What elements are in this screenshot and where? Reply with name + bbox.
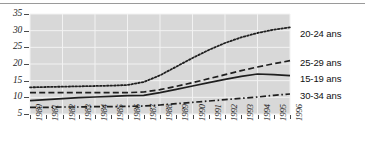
x-tick-label: 1988 xyxy=(164,104,174,121)
legend-label-30-34-ans: 30-34 ans xyxy=(300,90,341,101)
x-tick-mark xyxy=(160,115,161,119)
x-tick-mark xyxy=(79,115,80,119)
y-tick-label: 35 xyxy=(2,8,22,18)
x-tick-mark xyxy=(30,115,31,119)
x-tick-mark xyxy=(241,115,242,119)
y-tick-label: 30 xyxy=(2,25,22,35)
x-tick-label: 1986 xyxy=(132,104,142,121)
legend-label-15-19-ans: 15-19 ans xyxy=(300,73,341,84)
x-tick-label: 1984 xyxy=(99,104,109,121)
y-tick-label: 15 xyxy=(2,75,22,85)
x-tick-mark xyxy=(46,115,47,119)
y-tick-label: 5 xyxy=(2,108,22,118)
x-tick-label: 1989 xyxy=(180,104,190,121)
y-tick-mark xyxy=(24,47,29,48)
x-tick-mark xyxy=(128,115,129,119)
x-tick-mark xyxy=(111,115,112,119)
x-tick-mark xyxy=(176,115,177,119)
x-tick-label: 1987 xyxy=(148,104,158,121)
x-tick-mark xyxy=(63,115,64,119)
y-tick-mark xyxy=(24,97,29,98)
series-line-25-29-ans xyxy=(30,61,290,93)
x-tick-label: 1991 xyxy=(213,104,223,121)
y-tick-mark xyxy=(24,31,29,32)
legend-label-20-24-ans: 20-24 ans xyxy=(300,28,341,39)
x-tick-label: 1996 xyxy=(294,104,304,121)
y-tick-label: 10 xyxy=(2,91,22,101)
x-tick-mark xyxy=(258,115,259,119)
x-tick-label: 1994 xyxy=(262,104,272,121)
x-tick-mark xyxy=(209,115,210,119)
x-tick-mark xyxy=(274,115,275,119)
x-tick-mark xyxy=(193,115,194,119)
y-tick-mark xyxy=(24,64,29,65)
series-line-20-24-ans xyxy=(30,27,290,87)
x-tick-mark xyxy=(225,115,226,119)
x-tick-mark xyxy=(290,115,291,119)
x-tick-label: 1995 xyxy=(278,104,288,121)
y-tick-mark xyxy=(24,81,29,82)
x-tick-label: 1981 xyxy=(50,104,60,121)
x-tick-label: 1992 xyxy=(229,104,239,121)
y-tick-mark xyxy=(24,14,29,15)
x-tick-label: 1983 xyxy=(83,104,93,121)
y-tick-label: 25 xyxy=(2,41,22,51)
x-tick-mark xyxy=(144,115,145,119)
x-tick-label: 1982 xyxy=(67,104,77,121)
y-tick-mark xyxy=(24,114,29,115)
x-tick-mark xyxy=(95,115,96,119)
x-tick-label: 1993 xyxy=(245,104,255,121)
x-tick-label: 1980 xyxy=(34,104,44,121)
x-tick-label: 1990 xyxy=(197,104,207,121)
chart-container: 5101520253035 19801981198219831984198519… xyxy=(0,0,365,155)
y-tick-label: 20 xyxy=(2,58,22,68)
x-tick-label: 1985 xyxy=(115,104,125,121)
legend-label-25-29-ans: 25-29 ans xyxy=(300,57,341,68)
